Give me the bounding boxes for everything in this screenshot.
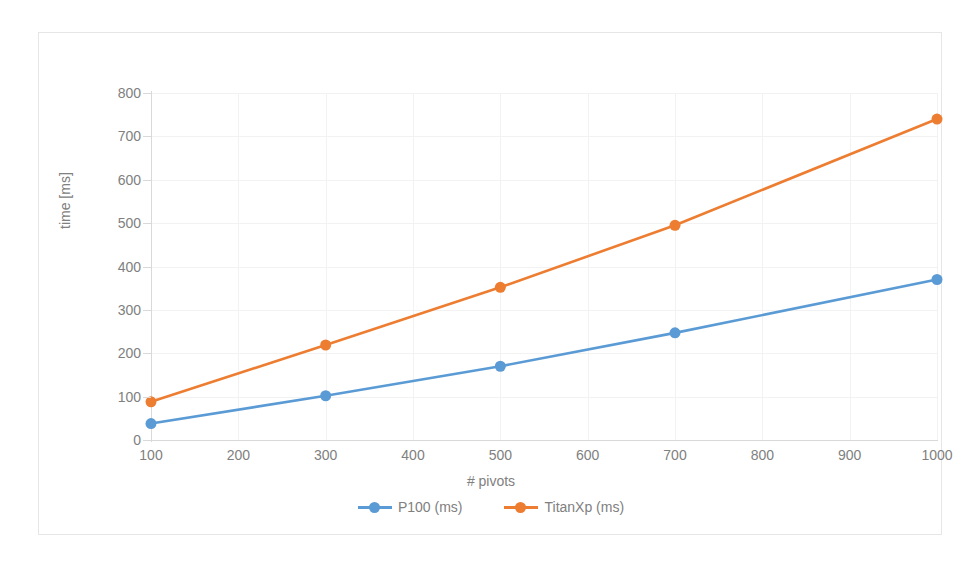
y-axis-tick-label: 200 — [81, 345, 141, 361]
y-axis-tick-label: 700 — [81, 128, 141, 144]
x-axis-tick-label: 200 — [208, 447, 268, 463]
series-line — [151, 119, 937, 402]
x-axis-tick-label: 100 — [121, 447, 181, 463]
legend-entry[interactable]: P100 (ms) — [358, 499, 463, 515]
x-axis-tick-label: 500 — [470, 447, 530, 463]
y-axis-tick-label: 800 — [81, 85, 141, 101]
y-axis-tick-label: 600 — [81, 172, 141, 188]
data-point-marker — [320, 390, 331, 401]
y-axis-tick-mark — [143, 180, 151, 181]
x-axis-tick-label: 300 — [296, 447, 356, 463]
x-axis-tick-label: 400 — [383, 447, 443, 463]
x-axis-tick-label: 1000 — [907, 447, 967, 463]
data-point-marker — [670, 220, 681, 231]
series-layer — [151, 93, 937, 440]
x-axis-tick-label: 900 — [820, 447, 880, 463]
x-axis-tick-label: 600 — [558, 447, 618, 463]
x-axis-title: # pivots — [39, 473, 943, 489]
data-point-marker — [320, 340, 331, 351]
y-axis-tick-mark — [143, 397, 151, 398]
legend-marker-icon — [358, 501, 392, 513]
data-point-marker — [146, 418, 157, 429]
data-point-marker — [495, 361, 506, 372]
y-axis-tick-label: 100 — [81, 389, 141, 405]
x-axis-tick-label: 800 — [732, 447, 792, 463]
data-point-marker — [146, 396, 157, 407]
y-axis-tick-mark — [143, 267, 151, 268]
gridline-vertical — [937, 93, 938, 440]
y-axis-tick-label: 0 — [81, 432, 141, 448]
y-axis-tick-mark — [143, 223, 151, 224]
x-axis-line — [151, 440, 938, 441]
x-axis-tick-label: 700 — [645, 447, 705, 463]
y-axis-title: time [ms] — [57, 172, 73, 229]
plot-area — [151, 93, 937, 440]
legend-label: P100 (ms) — [398, 499, 463, 515]
y-axis-tick-mark — [143, 136, 151, 137]
y-axis-tick-label: 300 — [81, 302, 141, 318]
data-point-marker — [495, 282, 506, 293]
series-line — [151, 280, 937, 424]
y-axis-tick-mark — [143, 353, 151, 354]
chart-container: 0100200300400500600700800 10020030040050… — [38, 32, 942, 535]
legend-marker-icon — [504, 501, 538, 513]
legend-label: TitanXp (ms) — [544, 499, 624, 515]
y-axis-tick-mark — [143, 310, 151, 311]
y-axis-tick-label: 400 — [81, 259, 141, 275]
legend-entry[interactable]: TitanXp (ms) — [504, 499, 624, 515]
y-axis-tick-mark — [143, 93, 151, 94]
chart-legend: P100 (ms)TitanXp (ms) — [39, 499, 943, 515]
y-axis-tick-mark — [143, 440, 151, 441]
data-point-marker — [670, 327, 681, 338]
y-axis-tick-label: 500 — [81, 215, 141, 231]
